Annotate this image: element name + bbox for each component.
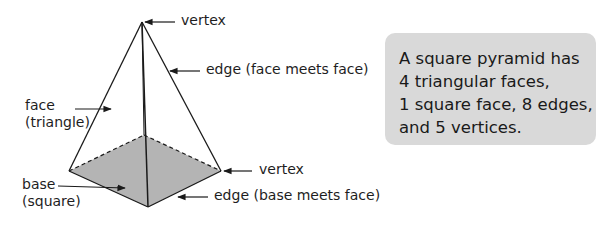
- label-base-edge: edge (base meets face): [214, 187, 380, 204]
- label-face-line2: (triangle): [25, 114, 90, 131]
- label-base-vertex: vertex: [259, 161, 304, 178]
- label-base-line2: (square): [22, 193, 81, 210]
- label-face-line1: face: [25, 97, 55, 114]
- label-base-line1: base: [22, 176, 55, 193]
- info-line: 1 square face, 8 edges,: [399, 93, 588, 116]
- info-line: 4 triangular faces,: [399, 70, 588, 93]
- info-line: and 5 vertices.: [399, 116, 588, 139]
- pyramid-base: [69, 135, 221, 207]
- label-apex-vertex: vertex: [181, 12, 226, 29]
- label-lateral-edge: edge (face meets face): [206, 61, 369, 78]
- info-line: A square pyramid has: [399, 47, 588, 70]
- info-box: A square pyramid has 4 triangular faces,…: [385, 33, 596, 145]
